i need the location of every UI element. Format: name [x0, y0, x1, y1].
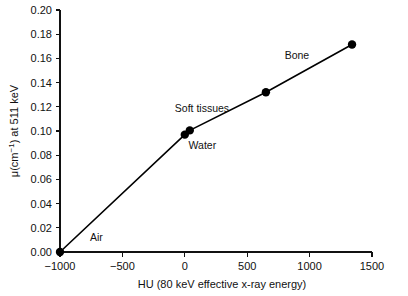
- x-tick-label: 1000: [297, 260, 321, 272]
- x-tick-label: 0: [182, 260, 188, 272]
- data-point-marker: [186, 126, 194, 134]
- y-axis-title: μ(cm−1) at 511 keV: [7, 84, 20, 177]
- data-point-marker: [56, 248, 64, 256]
- y-tick-label: 0.20: [31, 4, 52, 16]
- y-tick-label: 0.06: [31, 173, 52, 185]
- y-tick-label: 0.16: [31, 52, 52, 64]
- y-tick-label: 0.00: [31, 246, 52, 258]
- attenuation-vs-hu-chart: 0.000.020.040.060.080.100.120.140.160.18…: [0, 0, 408, 296]
- y-tick-label: 0.14: [31, 77, 52, 89]
- y-tick-label: 0.08: [31, 149, 52, 161]
- data-point-marker: [262, 88, 270, 96]
- data-point-marker: [348, 40, 356, 48]
- annotation-label: Soft tissues: [175, 102, 229, 114]
- x-tick-label: −1000: [45, 260, 76, 272]
- x-axis-title: HU (80 keV effective x-ray energy): [138, 278, 307, 290]
- annotation-label: Air: [90, 231, 103, 243]
- annotation-label: Water: [189, 139, 217, 151]
- y-tick-label: 0.12: [31, 101, 52, 113]
- y-tick-label: 0.10: [31, 125, 52, 137]
- y-tick-label: 0.04: [31, 198, 52, 210]
- x-tick-label: 1500: [360, 260, 384, 272]
- chart-figure: 0.000.020.040.060.080.100.120.140.160.18…: [0, 0, 408, 296]
- x-tick-label: 500: [238, 260, 256, 272]
- y-tick-label: 0.18: [31, 28, 52, 40]
- x-tick-label: −500: [110, 260, 135, 272]
- y-tick-label: 0.02: [31, 222, 52, 234]
- annotation-label: Bone: [285, 49, 310, 61]
